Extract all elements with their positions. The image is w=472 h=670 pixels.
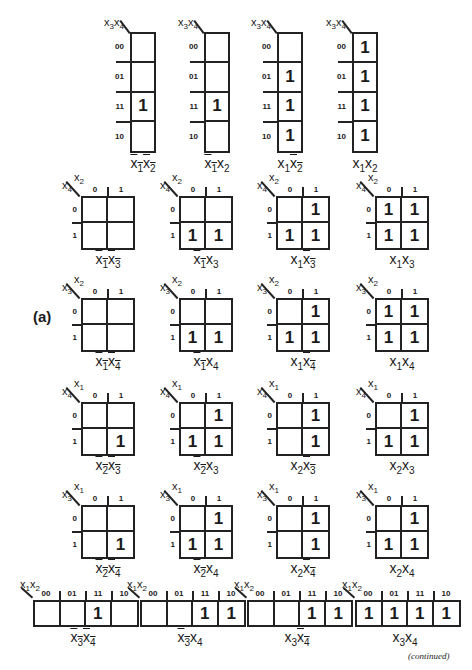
variable-x2: x2 bbox=[269, 273, 279, 285]
column-label: 1 bbox=[310, 494, 322, 503]
column-label: 10 bbox=[439, 589, 453, 598]
kmap-cell: 1 bbox=[206, 93, 228, 122]
column-label: 1 bbox=[115, 494, 127, 503]
map-caption: x2x3 bbox=[369, 457, 435, 476]
kmap-cell bbox=[108, 404, 133, 429]
map-caption: x1x4 bbox=[369, 353, 435, 372]
row-divider-tick bbox=[190, 91, 204, 93]
column-label: 1 bbox=[115, 391, 127, 400]
complement-x2: x2 bbox=[95, 457, 108, 473]
column-divider-tick bbox=[205, 289, 207, 298]
column-divider-tick bbox=[299, 591, 301, 600]
variable-x2: x2 bbox=[244, 578, 254, 590]
literal-x3: x3 bbox=[206, 457, 219, 473]
variable-x3: x3 bbox=[251, 16, 261, 28]
complement-x3: x3 bbox=[177, 629, 190, 645]
column-label: 0 bbox=[89, 287, 101, 296]
kmap-1x4: 1 bbox=[33, 600, 139, 627]
column-divider-tick bbox=[401, 393, 403, 402]
column-divider-tick bbox=[85, 591, 87, 600]
column-divider-tick bbox=[325, 591, 327, 600]
column-label: 1 bbox=[409, 494, 421, 503]
complement-x3: x3 bbox=[108, 251, 121, 267]
kmap-cell bbox=[377, 507, 402, 532]
column-divider-tick bbox=[381, 591, 383, 600]
column-label: 0 bbox=[284, 391, 296, 400]
kmap-cell: 1 bbox=[108, 532, 133, 557]
literal-x1: x1 bbox=[290, 251, 303, 267]
map-caption: x3x4 bbox=[267, 629, 327, 648]
top-variable: x2 bbox=[172, 273, 182, 288]
literal-x2: x2 bbox=[290, 457, 303, 473]
row-divider-tick bbox=[267, 324, 276, 326]
row-label: 1 bbox=[355, 333, 371, 342]
kmap-2x2: 1111 bbox=[375, 196, 429, 250]
literal-x4: x4 bbox=[402, 560, 415, 576]
map-caption: x2x4 bbox=[173, 560, 239, 579]
row-label: 1 bbox=[159, 437, 175, 446]
column-label: 0 bbox=[89, 185, 101, 194]
kmap-cell: 1 bbox=[354, 122, 376, 151]
kmap-cell bbox=[83, 404, 108, 429]
column-divider-tick bbox=[302, 187, 304, 196]
kmap-cell bbox=[206, 34, 228, 63]
complement-x1: x1 bbox=[95, 251, 108, 267]
row-divider-tick bbox=[116, 61, 130, 63]
map-caption: x3x4 bbox=[160, 629, 220, 648]
column-divider-tick bbox=[433, 591, 435, 600]
complement-x1: x1 bbox=[95, 353, 108, 369]
kmap-2x2: 11 bbox=[179, 196, 233, 250]
kmap-cell: 1 bbox=[303, 429, 328, 454]
map-caption: x1x4 bbox=[75, 353, 141, 372]
row-divider-tick bbox=[267, 222, 276, 224]
complement-x1: x1 bbox=[130, 155, 143, 171]
row-label: 10 bbox=[182, 132, 198, 141]
row-label: 1 bbox=[159, 231, 175, 240]
row-label: 1 bbox=[355, 540, 371, 549]
kmap-cell bbox=[206, 300, 231, 325]
literal-x1: x1 bbox=[352, 155, 365, 171]
literal-x4: x4 bbox=[206, 560, 219, 576]
row-divider-tick bbox=[263, 91, 277, 93]
complement-x4: x4 bbox=[297, 629, 310, 645]
kmap-cell: 1 bbox=[279, 122, 301, 151]
literal-x1: x1 bbox=[277, 155, 290, 171]
top-variable: x1 bbox=[172, 480, 182, 495]
row-label: 0 bbox=[256, 411, 272, 420]
row-label: 1 bbox=[61, 540, 77, 549]
complement-x4: x4 bbox=[83, 629, 96, 645]
row-label: 10 bbox=[255, 132, 271, 141]
kmap-cell bbox=[278, 532, 303, 557]
literal-x2: x2 bbox=[217, 155, 230, 171]
map-caption: x1x2 bbox=[338, 155, 392, 174]
row-divider-tick bbox=[170, 324, 179, 326]
kmap-cell: 1 bbox=[206, 429, 231, 454]
complement-x3: x3 bbox=[70, 629, 83, 645]
column-label: 1 bbox=[310, 185, 322, 194]
kmap-cell bbox=[181, 507, 206, 532]
kmap-cell: 1 bbox=[206, 223, 231, 248]
column-label: 0 bbox=[383, 391, 395, 400]
column-label: 1 bbox=[115, 287, 127, 296]
row-label: 0 bbox=[61, 307, 77, 316]
top-variable: x1 bbox=[269, 480, 279, 495]
complement-x4: x4 bbox=[303, 353, 316, 369]
kmap-cell bbox=[108, 198, 133, 223]
row-divider-tick bbox=[72, 531, 81, 533]
kmap-cell: 1 bbox=[206, 325, 231, 350]
row-label: 11 bbox=[330, 102, 346, 111]
kmap-cell: 1 bbox=[303, 223, 328, 248]
kmap-cell: 1 bbox=[108, 429, 133, 454]
column-label: 11 bbox=[91, 589, 105, 598]
complement-x1: x1 bbox=[204, 155, 217, 171]
row-divider-tick bbox=[267, 531, 276, 533]
complement-x2: x2 bbox=[290, 155, 303, 171]
column-divider-tick bbox=[302, 289, 304, 298]
variable-x3: x3 bbox=[178, 16, 188, 28]
variable-x1: x1 bbox=[368, 377, 378, 389]
kmap-cell bbox=[83, 507, 108, 532]
map-caption: x1x3 bbox=[270, 251, 336, 270]
kmap-cell bbox=[83, 300, 108, 325]
kmap-cell bbox=[168, 602, 194, 625]
row-divider-tick bbox=[338, 121, 352, 123]
